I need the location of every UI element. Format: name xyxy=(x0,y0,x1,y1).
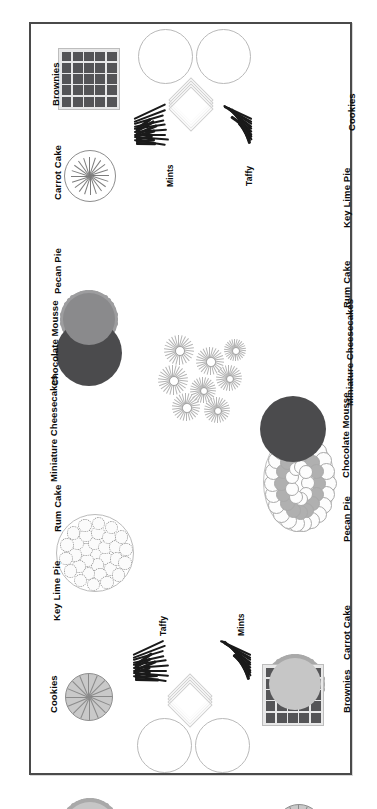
label-miniature-cheesecakes-top: Miniature Cheesecakes xyxy=(48,375,59,482)
label-cookies-top: Cookies xyxy=(48,675,59,713)
fork-bundle-4[interactable] xyxy=(211,648,253,686)
label-taffy-bottom: Taffy xyxy=(158,616,168,636)
plate-stack-4[interactable] xyxy=(195,718,250,773)
label-miniature-cheesecakes-bottom: Miniature Cheesecakes xyxy=(344,299,355,406)
label-cookies-bottom: Cookies xyxy=(346,93,357,131)
label-carrot-cake-bottom: Carrot Cake xyxy=(341,605,352,660)
item-rum-cake-bottom[interactable] xyxy=(275,804,323,809)
label-brownies-bottom: Brownies xyxy=(341,669,352,713)
label-carrot-cake-top: Carrot Cake xyxy=(52,145,63,200)
label-chocolate-mousse-bottom: Chocolate Mousse xyxy=(340,392,351,478)
plate-stack-2[interactable] xyxy=(196,29,251,84)
floral-centerpiece[interactable] xyxy=(150,325,246,421)
plate-stack-1[interactable] xyxy=(138,29,193,84)
napkin-stack-1[interactable] xyxy=(168,82,214,128)
label-chocolate-mousse-top: Chocolate Mousse xyxy=(49,300,60,386)
label-rum-cake-top: Rum Cake xyxy=(52,485,63,532)
fork-bundle-1[interactable] xyxy=(132,112,174,150)
label-pecan-pie-top: Pecan Pie xyxy=(52,248,63,294)
label-key-lime-pie-top: Key Lime Pie xyxy=(51,561,62,621)
item-key-lime-pie-top[interactable] xyxy=(60,798,120,809)
item-carrot-cake-top[interactable] xyxy=(64,150,116,202)
buffet-diagram-canvas: Brownies Carrot Cake Pecan Pie Chocolate… xyxy=(0,0,377,809)
item-miniature-cheesecakes-top[interactable] xyxy=(56,514,134,592)
napkin-stack-2[interactable] xyxy=(167,678,213,724)
item-brownies-top[interactable] xyxy=(58,48,120,110)
label-key-lime-pie-bottom: Key Lime Pie xyxy=(341,168,352,228)
label-taffy-top: Taffy xyxy=(244,166,254,186)
label-pecan-pie-bottom: Pecan Pie xyxy=(341,496,352,542)
label-mints-bottom: Mints xyxy=(236,613,246,636)
label-mints-top: Mints xyxy=(165,164,175,187)
plate-stack-3[interactable] xyxy=(137,718,192,773)
fork-bundle-2[interactable] xyxy=(212,112,254,150)
item-chocolate-mousse-bottom[interactable] xyxy=(260,396,326,462)
item-rum-cake-top[interactable] xyxy=(65,673,113,721)
label-brownies-top: Brownies xyxy=(50,62,61,106)
